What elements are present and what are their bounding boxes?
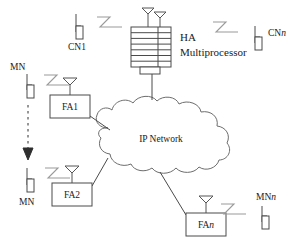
- mnn-signal-icon: [221, 204, 246, 214]
- handoff-arrow-head: [23, 148, 33, 160]
- ha-antenna-left: [142, 8, 154, 27]
- cloud-label: IP Network: [139, 134, 183, 144]
- fa1-label: FA1: [62, 102, 78, 112]
- link-fan-to-cloud: [160, 172, 186, 215]
- fan-label-base: FA: [198, 220, 210, 230]
- mn-bottom-signal-icon: [45, 168, 70, 178]
- cnn-label-base: CN: [268, 28, 281, 38]
- cnn-label-index: n: [281, 28, 286, 38]
- network-diagram-canvas: IP Network: [0, 0, 301, 251]
- fan-label-index: n: [209, 220, 214, 230]
- ha-base-plate: [140, 67, 160, 74]
- mn-top-handset-icon: [27, 74, 34, 98]
- cn1-handset-icon: [76, 14, 83, 39]
- cnn-label: CNn: [268, 28, 286, 38]
- foreign-agent-fa2[interactable]: FA2: [52, 166, 92, 206]
- foreign-agent-fa1[interactable]: FA1: [50, 78, 90, 118]
- cnn-handset-icon: [255, 26, 262, 50]
- mnn-label-index: n: [271, 192, 276, 202]
- mnn-handset-icon: [262, 206, 269, 229]
- mn-bottom-handset-icon: [27, 168, 34, 192]
- mn-bottom-label: MN: [19, 197, 34, 207]
- link-fa2-to-cloud: [92, 158, 108, 186]
- ha-multiprocessor[interactable]: HA Multiprocessor: [131, 8, 247, 74]
- ha-label-line2: Multiprocessor: [180, 46, 247, 58]
- foreign-agent-fan[interactable]: FAn: [186, 196, 226, 236]
- mnn-label: MNn: [256, 192, 276, 202]
- cnn-signal-icon: [213, 22, 238, 32]
- cn1-label: CN1: [68, 42, 86, 52]
- ip-network-cloud: IP Network: [96, 96, 229, 173]
- mobile-node-n[interactable]: MNn: [221, 192, 276, 229]
- mobile-node-top[interactable]: MN: [10, 62, 69, 98]
- fan-label: FAn: [198, 220, 214, 230]
- fa1-antenna-icon: [63, 78, 77, 95]
- handoff-movement-arrow: [23, 105, 33, 160]
- cn1-signal-icon: [97, 17, 122, 27]
- fa2-antenna-icon: [65, 166, 79, 183]
- mn-top-label: MN: [10, 62, 25, 72]
- ha-antenna-right: [154, 12, 166, 27]
- ha-label-line1: HA: [180, 31, 196, 43]
- fan-antenna-icon: [199, 196, 213, 213]
- correspondent-node-cn1[interactable]: CN1: [68, 14, 122, 52]
- network-topology-figure: IP Network: [0, 0, 301, 251]
- mnn-label-base: MN: [256, 192, 271, 202]
- fa2-label: FA2: [64, 190, 80, 200]
